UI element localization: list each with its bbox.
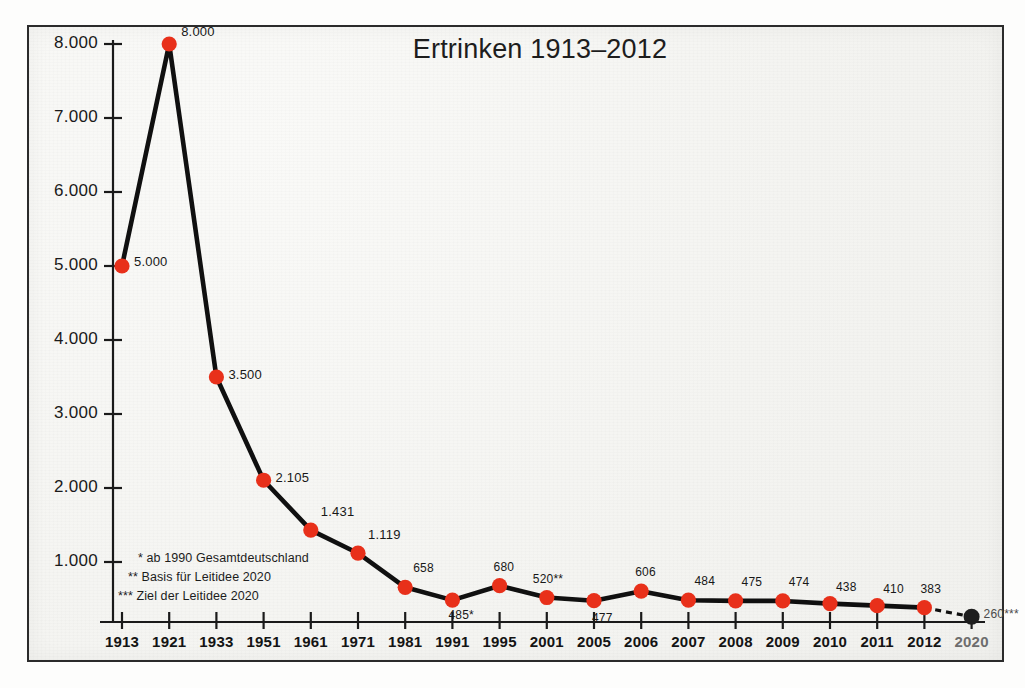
data-point-marker bbox=[539, 590, 554, 605]
y-axis-tick-label: 5.000 bbox=[32, 255, 98, 275]
data-point-label-1961: 1.431 bbox=[321, 504, 355, 519]
y-axis-tick-label: 1.000 bbox=[32, 551, 98, 571]
series-line bbox=[122, 44, 924, 608]
data-point-label-1951: 2.105 bbox=[276, 470, 310, 485]
data-point-marker bbox=[870, 598, 885, 613]
data-point-label-2007: 484 bbox=[694, 574, 715, 588]
y-axis-tick-label: 7.000 bbox=[32, 107, 98, 127]
footnote-2: ** Basis für Leitidee 2020 bbox=[128, 570, 271, 584]
data-point-label-2005: 477 bbox=[592, 611, 613, 625]
data-point-marker bbox=[775, 593, 790, 608]
data-point-marker bbox=[492, 578, 507, 593]
data-point-marker bbox=[586, 593, 601, 608]
data-point-marker bbox=[398, 580, 413, 595]
plot-area bbox=[0, 0, 1025, 688]
data-point-label-2020: 260*** bbox=[984, 607, 1019, 621]
data-point-label-2008: 475 bbox=[742, 575, 763, 589]
data-point-marker bbox=[728, 593, 743, 608]
data-point-label-1913: 5.000 bbox=[134, 254, 168, 269]
data-point-marker bbox=[681, 593, 696, 608]
data-point-marker bbox=[822, 596, 837, 611]
x-axis-ticks bbox=[122, 612, 972, 629]
chart-svg bbox=[0, 0, 1025, 688]
x-axis-tick-label-2020: 2020 bbox=[942, 633, 1002, 650]
y-axis bbox=[104, 40, 122, 622]
data-point-marker bbox=[634, 584, 649, 599]
y-axis-tick-label: 2.000 bbox=[32, 477, 98, 497]
y-axis-tick-label: 8.000 bbox=[32, 33, 98, 53]
data-point-marker bbox=[256, 473, 271, 488]
data-point-label-2012: 383 bbox=[920, 582, 941, 596]
data-point-label-1971: 1.119 bbox=[368, 527, 401, 542]
footnote-3: *** Ziel der Leitidee 2020 bbox=[118, 589, 259, 603]
data-point-label-2001: 520** bbox=[533, 572, 563, 586]
data-point-label-2006: 606 bbox=[635, 565, 656, 579]
data-point-marker bbox=[445, 593, 460, 608]
data-point-marker bbox=[114, 258, 129, 273]
data-point-label-2009: 474 bbox=[789, 575, 810, 589]
footnote-1: * ab 1990 Gesamtdeutschland bbox=[138, 551, 309, 565]
data-point-marker bbox=[303, 523, 318, 538]
data-point-label-1991: 485* bbox=[448, 608, 474, 622]
data-point-marker bbox=[917, 600, 932, 615]
x-axis bbox=[100, 612, 985, 629]
y-axis-tick-label: 3.000 bbox=[32, 403, 98, 423]
y-axis-tick-label: 4.000 bbox=[32, 329, 98, 349]
data-point-label-1921: 8.000 bbox=[181, 24, 215, 39]
data-point-label-1995: 680 bbox=[494, 560, 515, 574]
data-point-label-1981: 658 bbox=[413, 561, 434, 575]
data-point-markers bbox=[114, 36, 979, 624]
chart-page: Ertrinken 1913–2012 1.0002.0003.0004.000… bbox=[0, 0, 1025, 688]
target-point-marker bbox=[964, 609, 980, 625]
data-point-label-2010: 438 bbox=[836, 580, 857, 594]
data-point-marker bbox=[162, 36, 177, 51]
data-point-label-1933: 3.500 bbox=[228, 367, 262, 382]
data-point-label-2011: 410 bbox=[883, 582, 904, 596]
data-point-marker bbox=[350, 546, 365, 561]
y-axis-tick-label: 6.000 bbox=[32, 181, 98, 201]
data-point-marker bbox=[209, 369, 224, 384]
